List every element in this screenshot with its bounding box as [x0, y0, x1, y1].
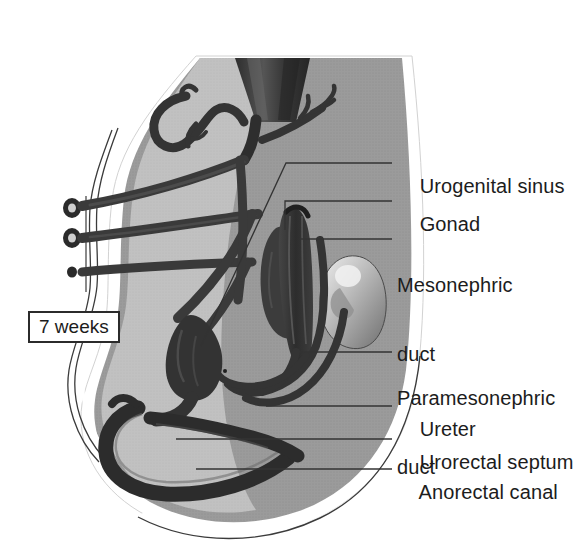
label-anorectal-canal-text: Anorectal canal — [419, 481, 558, 503]
stage-badge: 7 weeks — [28, 311, 120, 343]
figure-canvas: Urogenital sinus Gonad Mesonephric duct … — [0, 0, 586, 557]
label-mesonephric-duct-line1: Mesonephric — [397, 274, 513, 297]
label-anorectal-canal: Anorectal canal — [397, 458, 558, 527]
kidney — [320, 256, 386, 349]
